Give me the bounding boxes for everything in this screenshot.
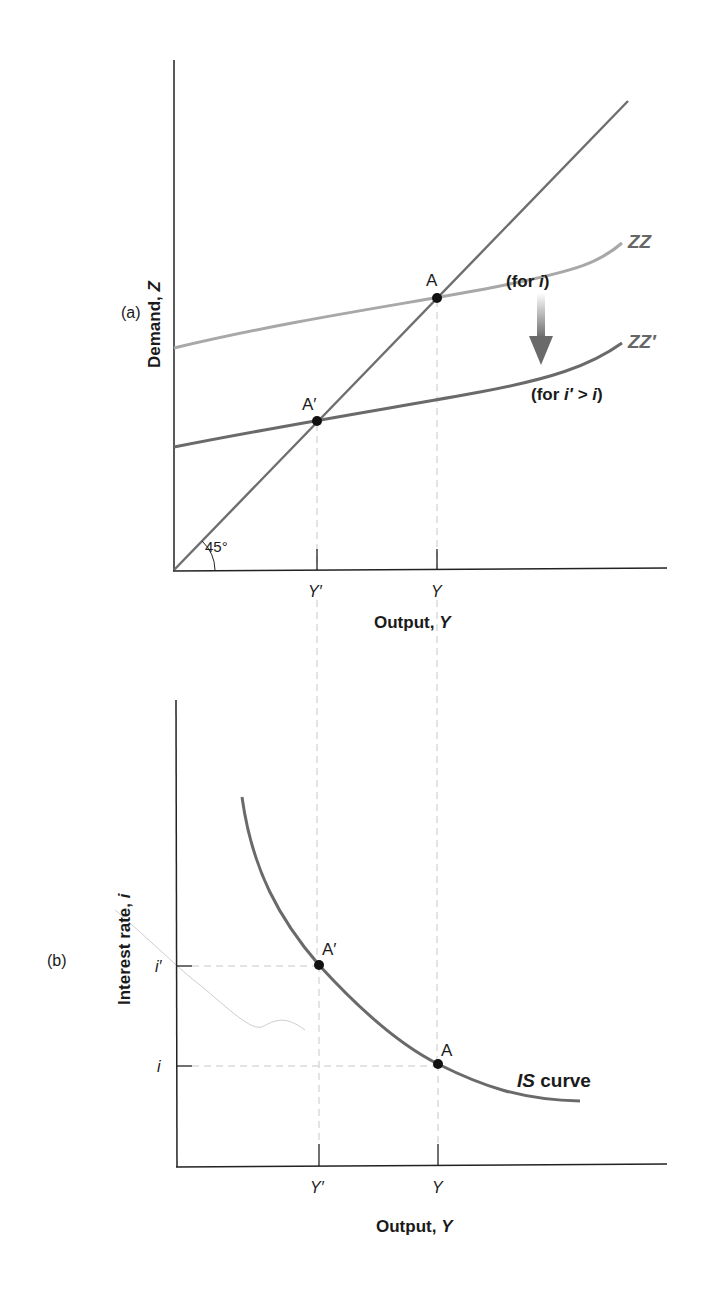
is-derivation-diagram: (a) 45° A A′ ZZ (for i) ZZ′ (for i′ > i) (0, 0, 716, 1306)
angle-label: 45° (205, 538, 228, 555)
zz-note: (for i) (506, 272, 549, 291)
zz-prime-note: (for i′ > i) (531, 385, 603, 404)
point-a-prime-label-b: A′ (322, 940, 337, 959)
y-axis-b (176, 700, 177, 1167)
is-curve (242, 797, 580, 1101)
line-45-degree (174, 101, 628, 570)
scan-artifact (115, 910, 305, 1030)
tick-label-i-prime: i′ (155, 958, 163, 975)
zz-label: ZZ (627, 231, 653, 252)
tick-label-y-prime-b: Y′ (310, 1179, 325, 1196)
y-axis-title-b: Interest rate, i (115, 892, 134, 1005)
tick-label-i: i (157, 1058, 161, 1075)
panel-b: (b) A′ A IS curve i′ i Y′ Y (47, 700, 667, 1236)
shift-arrow-shaft (537, 293, 545, 338)
x-axis-b (176, 1164, 667, 1167)
point-a-label: A (426, 271, 438, 290)
tick-label-y-prime-a: Y′ (308, 583, 323, 600)
point-a-prime-b (314, 960, 324, 970)
shift-down-arrow-icon (529, 336, 553, 365)
point-a-prime (312, 416, 322, 426)
zz-prime-label: ZZ′ (627, 331, 657, 352)
x-axis-title-a: Output, Y (374, 613, 452, 632)
panel-a: (a) 45° A A′ ZZ (for i) ZZ′ (for i′ > i) (121, 60, 667, 632)
is-curve-label: IS curve (517, 1070, 591, 1091)
point-a-label-b: A (441, 1041, 453, 1060)
x-axis-a (173, 568, 667, 571)
zz-curve (174, 243, 622, 348)
point-a-b (433, 1059, 443, 1069)
panel-b-label: (b) (47, 952, 67, 969)
point-a-prime-label: A′ (302, 395, 317, 414)
point-a (432, 293, 442, 303)
tick-label-y-a: Y (431, 583, 443, 600)
x-axis-title-b: Output, Y (376, 1217, 454, 1236)
y-axis-title-a: Demand, Z (145, 280, 164, 368)
tick-label-y-b: Y (432, 1179, 444, 1196)
panel-a-label: (a) (121, 304, 141, 321)
